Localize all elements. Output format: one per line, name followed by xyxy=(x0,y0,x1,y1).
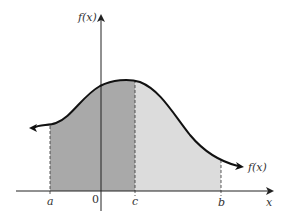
curve-label: f(x) xyxy=(247,161,267,174)
x-axis-label: x xyxy=(266,196,273,209)
tick-label-c: c xyxy=(132,195,138,208)
tick-label-b: b xyxy=(218,196,225,209)
y-axis-label: f(x) xyxy=(77,11,97,24)
curve-left-arrow-icon xyxy=(29,124,37,132)
tick-label-origin: 0 xyxy=(92,193,99,206)
pdf-diagram: f(x) x f(x) a 0 c b xyxy=(0,0,288,222)
region-c-to-b xyxy=(135,60,221,191)
tick-label-a: a xyxy=(47,195,54,208)
